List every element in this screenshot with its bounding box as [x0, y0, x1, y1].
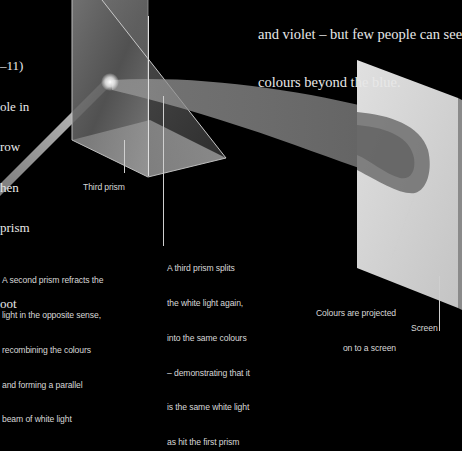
leader-line-screen: [439, 276, 440, 331]
leader-line-third-prism: [124, 140, 125, 173]
caption-second-prism: A second prism refracts the light in the…: [2, 252, 103, 449]
leader-line-second-prism: [148, 16, 149, 176]
leader-line-third-prism-caption: [163, 96, 164, 246]
caption-third-prism-splits: A third prism splits the white light aga…: [167, 240, 250, 451]
top-right-body-text: and violet – but few people can see colo…: [258, 0, 462, 122]
entry-light-spot: [101, 73, 119, 91]
caption-colours-projected: Colours are projected on to a screen: [292, 285, 396, 378]
label-third-prism: Third prism: [83, 182, 125, 194]
label-screen: Screen: [411, 323, 438, 335]
